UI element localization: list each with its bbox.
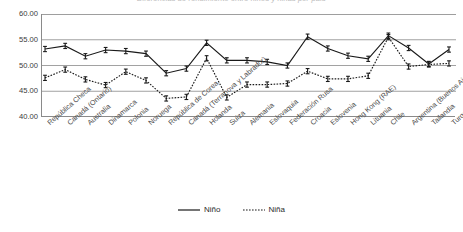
- legend-entry[interactable]: Niña: [243, 205, 285, 214]
- data-point-marker: [245, 82, 249, 87]
- legend-label: Niño: [204, 205, 220, 214]
- legend-entry[interactable]: Niño: [178, 205, 220, 214]
- dotted-line-icon: [243, 206, 265, 214]
- y-tick-label: 60.00: [2, 10, 38, 18]
- data-point-marker: [447, 47, 451, 52]
- x-axis-labels: República ChecaCanadá (Ontario)Australia…: [0, 117, 463, 201]
- solid-line-icon: [178, 206, 200, 214]
- legend-label: Niña: [269, 205, 285, 214]
- chart-legend: NiñoNiña: [0, 205, 463, 214]
- data-point-marker: [63, 67, 67, 72]
- y-tick-label: 55.00: [2, 36, 38, 44]
- chart-root: Diferencias de rendimiento entre niños y…: [0, 0, 463, 232]
- y-tick-label: 45.00: [2, 87, 38, 95]
- data-point-marker: [144, 78, 148, 83]
- data-point-marker: [306, 69, 310, 74]
- y-tick-label: 50.00: [2, 62, 38, 70]
- data-point-marker: [407, 45, 411, 50]
